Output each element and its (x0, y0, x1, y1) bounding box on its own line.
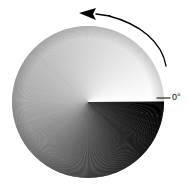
disc-edge-shading (12, 26, 164, 178)
zero-degree-label: 0° (172, 93, 181, 102)
figure-root: 0° (0, 0, 189, 192)
arrow-arc-tail (96, 14, 110, 16)
arrow-head-icon (79, 8, 96, 20)
phase-disc-figure (0, 0, 189, 192)
